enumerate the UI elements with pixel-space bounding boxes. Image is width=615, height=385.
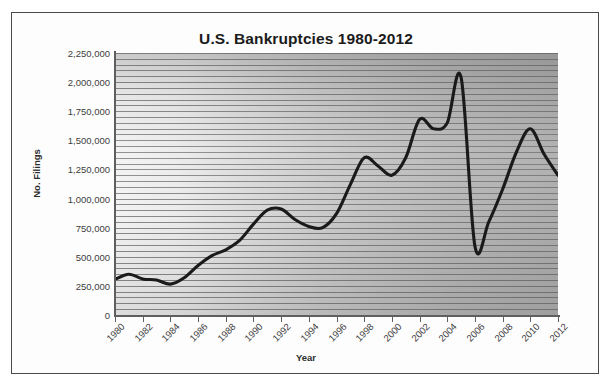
y-tick-label: 1,750,000 bbox=[40, 106, 110, 117]
x-tick-label: 2006 bbox=[458, 321, 487, 350]
y-tick-label: 1,000,000 bbox=[40, 193, 110, 204]
y-tick-label: 250,000 bbox=[40, 280, 110, 291]
x-tick-mark bbox=[143, 317, 144, 322]
screenshot-page: U.S. Bankruptcies 1980-2012 No. Filings … bbox=[0, 0, 615, 385]
y-tick-label: 2,250,000 bbox=[40, 48, 110, 59]
chart-figure-frame: U.S. Bankruptcies 1980-2012 No. Filings … bbox=[11, 12, 599, 374]
x-tick-mark bbox=[420, 317, 421, 322]
x-tick-mark bbox=[337, 317, 338, 322]
series-line-no-filings bbox=[115, 73, 558, 284]
x-tick-label: 1986 bbox=[181, 321, 210, 350]
x-tick-label: 1998 bbox=[347, 321, 376, 350]
x-tick-label: 2000 bbox=[375, 321, 404, 350]
x-tick-label: 1992 bbox=[264, 321, 293, 350]
x-tick-label: 2012 bbox=[541, 321, 570, 350]
x-tick-label: 1990 bbox=[236, 321, 265, 350]
x-tick-label: 1984 bbox=[153, 321, 182, 350]
y-tick-label: 0 bbox=[40, 310, 110, 321]
x-tick-mark bbox=[309, 317, 310, 322]
x-axis-title: Year bbox=[12, 352, 600, 363]
y-tick-label: 750,000 bbox=[40, 222, 110, 233]
y-tick-label: 500,000 bbox=[40, 251, 110, 262]
y-axis-line bbox=[114, 51, 116, 317]
x-tick-mark bbox=[170, 317, 171, 322]
y-axis-tick-labels: 2,250,0002,000,0001,750,0001,500,0001,25… bbox=[34, 13, 110, 375]
x-tick-mark bbox=[226, 317, 227, 322]
x-tick-mark bbox=[503, 317, 504, 322]
x-tick-mark bbox=[364, 317, 365, 322]
x-tick-mark bbox=[115, 317, 116, 322]
x-tick-label: 2002 bbox=[402, 321, 431, 350]
x-tick-mark bbox=[475, 317, 476, 322]
x-tick-label: 2010 bbox=[513, 321, 542, 350]
x-tick-mark bbox=[281, 317, 282, 322]
x-tick-label: 1982 bbox=[125, 321, 154, 350]
x-tick-label: 2008 bbox=[485, 321, 514, 350]
x-tick-label: 1994 bbox=[292, 321, 321, 350]
y-tick-label: 2,000,000 bbox=[40, 77, 110, 88]
data-line-svg bbox=[115, 53, 558, 315]
plot-area bbox=[115, 53, 558, 315]
x-tick-mark bbox=[530, 317, 531, 322]
x-tick-label: 1996 bbox=[319, 321, 348, 350]
x-tick-mark bbox=[392, 317, 393, 322]
y-tick-label: 1,250,000 bbox=[40, 164, 110, 175]
x-tick-mark bbox=[198, 317, 199, 322]
x-tick-mark bbox=[558, 317, 559, 322]
x-tick-label: 2004 bbox=[430, 321, 459, 350]
x-tick-mark bbox=[447, 317, 448, 322]
x-tick-label: 1988 bbox=[209, 321, 238, 350]
x-tick-mark bbox=[253, 317, 254, 322]
y-tick-label: 1,500,000 bbox=[40, 135, 110, 146]
